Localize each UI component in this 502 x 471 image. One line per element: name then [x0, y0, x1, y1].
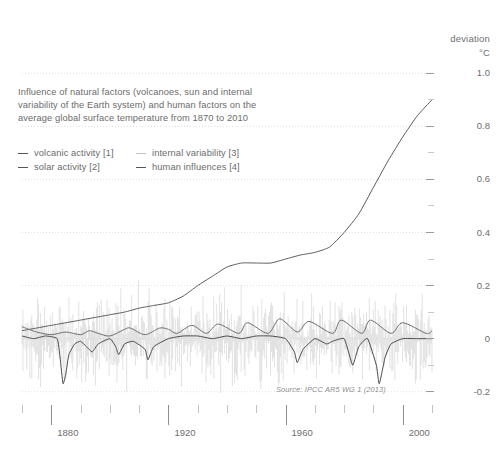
legend-row: solar activity [2] human influences [4] [18, 160, 268, 174]
legend-label: volcanic activity [1] [34, 148, 114, 158]
x-tick-mark [22, 405, 23, 413]
x-tick-mark [256, 405, 257, 413]
chart-description: Influence of natural factors (volcanoes,… [18, 86, 258, 126]
x-tick-mark [403, 405, 404, 425]
legend-item-solar-activity[interactable]: solar activity [2] [18, 162, 136, 172]
legend-item-volcanic-activity[interactable]: volcanic activity [1] [18, 148, 136, 158]
x-tick-mark [168, 405, 169, 425]
y-tick-label: -0.2 [474, 386, 490, 397]
legend-swatch-icon [18, 167, 28, 168]
y-tick-label: 0.8 [477, 120, 490, 131]
climate-chart-page: deviation °C Influence of natural factor… [0, 0, 502, 471]
x-tick-mark [432, 405, 433, 413]
x-tick-label: 1960 [292, 427, 313, 438]
y-tick-label: 1.0 [477, 67, 490, 78]
x-tick-mark [286, 405, 287, 425]
x-tick-label: 2000 [409, 427, 430, 438]
y-tick-label: 0.4 [477, 227, 490, 238]
x-tick-mark [51, 405, 52, 425]
x-tick-label: 1880 [57, 427, 78, 438]
source-note: Source: IPCC AR5 WG 1 (2013) [276, 385, 386, 394]
legend-item-human-influences[interactable]: human influences [4] [136, 162, 240, 172]
legend-label: internal variability [3] [152, 148, 239, 158]
legend-label: solar activity [2] [34, 162, 100, 172]
x-axis: 1880192019602000 [22, 405, 432, 465]
x-tick-mark [110, 405, 111, 413]
legend-label: human influences [4] [152, 162, 240, 172]
legend-row: volcanic activity [1] internal variabili… [18, 146, 268, 160]
x-tick-mark [81, 405, 82, 413]
axis-title-deviation: deviation [450, 33, 490, 44]
legend-swatch-icon [18, 153, 28, 154]
axis-unit-celsius: °C [479, 47, 490, 58]
y-tick-label: 0.6 [477, 173, 490, 184]
x-tick-mark [373, 405, 374, 413]
legend-swatch-icon [136, 167, 146, 168]
x-tick-mark [198, 405, 199, 413]
x-tick-mark [344, 405, 345, 413]
x-tick-label: 1920 [174, 427, 195, 438]
x-tick-mark [139, 405, 140, 413]
x-tick-mark [227, 405, 228, 413]
legend-item-internal-variability[interactable]: internal variability [3] [136, 148, 239, 158]
legend-swatch-icon [136, 153, 146, 154]
legend: volcanic activity [1] internal variabili… [18, 146, 268, 174]
y-tick-label: 0 [485, 333, 490, 344]
y-tick-label: 0.2 [477, 280, 490, 291]
series-human-influences [22, 100, 432, 331]
x-tick-mark [315, 405, 316, 413]
